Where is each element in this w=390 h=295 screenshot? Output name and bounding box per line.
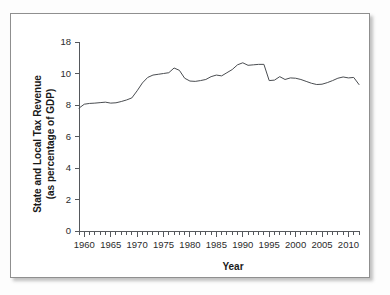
y-tick-label: 8 [66, 99, 71, 110]
x-axis-minor-ticks [79, 231, 359, 235]
y-tick-label: 4 [66, 162, 71, 173]
x-tick-label: 1990 [232, 239, 253, 250]
x-tick-label: 1980 [179, 239, 200, 250]
data-series-line [79, 63, 359, 108]
x-tick-label: 1975 [153, 239, 174, 250]
x-tick-label: 1960 [74, 239, 95, 250]
y-tick-label: 10 [60, 68, 71, 79]
chart-plot-area: 024681018 196019651970197519801985199019… [11, 14, 371, 279]
y-tick-label: 18 [60, 36, 71, 47]
x-tick-label: 1985 [206, 239, 227, 250]
y-axis-title-line1: State and Local Tax Revenue [32, 75, 43, 213]
x-axis-title: Year [222, 261, 243, 272]
x-axis-ticks: 1960196519701975198019851990199520002005… [74, 231, 359, 250]
y-axis-ticks: 024681018 [60, 36, 79, 236]
x-tick-label: 2005 [311, 239, 332, 250]
page-root: 024681018 196019651970197519801985199019… [0, 0, 390, 295]
x-tick-label: 2000 [285, 239, 306, 250]
x-tick-label: 1965 [100, 239, 121, 250]
x-tick-label: 1995 [259, 239, 280, 250]
figure-frame: 024681018 196019651970197519801985199019… [10, 13, 370, 278]
y-tick-label: 2 [66, 194, 71, 205]
chart-axes [79, 42, 359, 231]
y-tick-label: 0 [66, 225, 71, 236]
x-tick-label: 1970 [127, 239, 148, 250]
line-chart: 024681018 196019651970197519801985199019… [11, 14, 371, 279]
y-axis-title-line2: (as percentage of GDP) [45, 89, 56, 200]
x-tick-label: 2010 [338, 239, 359, 250]
y-tick-label: 6 [66, 131, 71, 142]
